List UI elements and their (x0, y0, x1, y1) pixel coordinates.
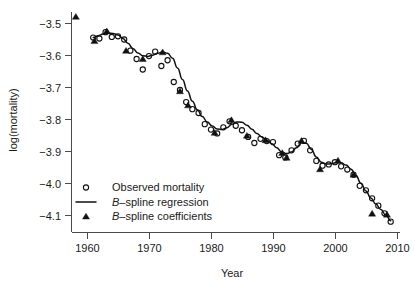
legend-entry-label: B–spline coefficients (112, 210, 213, 222)
legend-entry-label: Observed mortality (112, 181, 205, 193)
chart-figure: −3.5−3.6−3.7−3.8−3.9−4.0−4.1 log(mortali… (0, 0, 415, 291)
x-tick-label: 1970 (137, 242, 161, 254)
legend-entry-label: B–spline regression (112, 196, 209, 208)
mortality-spline-chart: −3.5−3.6−3.7−3.8−3.9−4.0−4.1 log(mortali… (0, 0, 415, 291)
y-tick-label: −3.6 (39, 50, 61, 62)
x-tick-label: 2010 (385, 242, 409, 254)
x-tick-label: 2000 (323, 242, 347, 254)
x-tick-label: 1990 (261, 242, 285, 254)
y-tick-label: −3.9 (39, 146, 61, 158)
y-tick-label: −3.5 (39, 18, 61, 30)
y-tick-label: −4.1 (39, 210, 61, 222)
y-tick-label: −3.7 (39, 82, 61, 94)
y-tick-label: −4.0 (39, 178, 61, 190)
x-axis-title: Year (221, 267, 244, 279)
x-tick-label: 1980 (199, 242, 223, 254)
x-tick-label: 1960 (75, 242, 99, 254)
y-tick-label: −3.8 (39, 114, 61, 126)
y-axis-title: log(mortality) (7, 88, 19, 152)
